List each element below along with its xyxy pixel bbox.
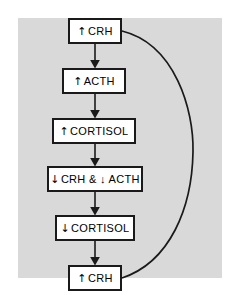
up-arrow-icon: ↑ xyxy=(73,76,83,87)
node-crh-up-bottom[interactable]: ↑CRH xyxy=(68,265,122,291)
flow-connectors xyxy=(0,0,232,295)
down-arrow-icon: ↓ xyxy=(50,174,60,185)
node-crh-up-bottom-label: CRH xyxy=(88,273,113,284)
node-crh-up-top[interactable]: ↑CRH xyxy=(68,18,122,44)
up-arrow-icon: ↑ xyxy=(77,26,87,37)
node-acth-up-label: ACTH xyxy=(84,76,115,87)
node-crh-acth-down-label: CRH & ↓ ACTH xyxy=(61,174,140,185)
diagram-canvas: ↑CRH ↑ACTH ↑CORTISOL ↓CRH & ↓ ACTH ↓CORT… xyxy=(0,0,232,295)
node-cortisol-up-label: CORTISOL xyxy=(70,126,128,137)
node-crh-up-top-label: CRH xyxy=(88,26,113,37)
up-arrow-icon: ↑ xyxy=(60,126,70,137)
down-arrow-icon: ↓ xyxy=(61,223,71,234)
node-cortisol-down[interactable]: ↓CORTISOL xyxy=(55,215,135,241)
up-arrow-icon: ↑ xyxy=(77,273,87,284)
node-crh-acth-down[interactable]: ↓CRH & ↓ ACTH xyxy=(47,166,143,192)
node-cortisol-up[interactable]: ↑CORTISOL xyxy=(52,118,136,144)
node-acth-up[interactable]: ↑ACTH xyxy=(62,68,126,94)
node-cortisol-down-label: CORTISOL xyxy=(71,223,129,234)
